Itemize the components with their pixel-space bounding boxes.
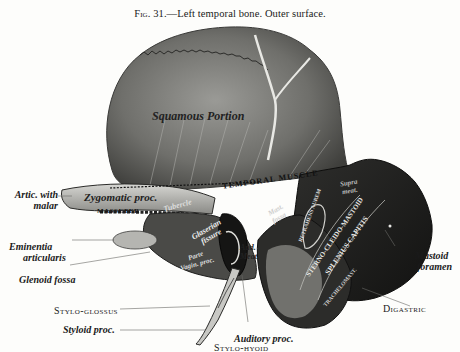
label-masseter: MASSETER [97,206,140,217]
label-stylo-glossus: Stylo-glossus [54,305,118,316]
label-eminentia: Eminentia [9,241,52,252]
label-digastric: Digastric [383,303,426,314]
label-foramen: foramen [417,261,452,272]
label-squamous-portion: Squamous Portion [152,111,244,122]
articular-eminence [113,231,157,249]
label-stylo-hyoid: Stylo-hyoid [214,342,269,352]
mastoid-foramen-dot [389,225,392,228]
label-glenoid-fossa: Glenoid fossa [19,274,75,285]
label-meat: Meat. [240,251,259,262]
label-malar: malar [0,200,58,211]
label-zygomatic-proc: Zygomatic proc. [84,192,157,203]
temporal-bone-illustration [0,0,460,352]
label-styloid-proc: Styloid proc. [63,324,115,335]
label-mastoid: Mastoid [415,250,448,261]
label-artic-with: Artic. with [0,189,58,200]
label-articularis: articularis [23,252,66,263]
